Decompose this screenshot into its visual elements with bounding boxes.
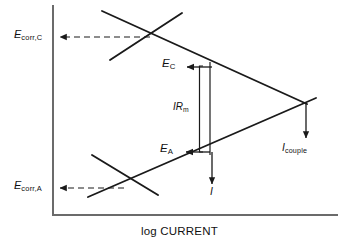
label-e-a-sub: A bbox=[168, 147, 173, 156]
label-ir-m: IRm bbox=[173, 102, 189, 113]
label-e-a-base: E bbox=[160, 142, 168, 154]
label-e-a: EA bbox=[160, 143, 173, 156]
x-axis-title: log CURRENT bbox=[141, 225, 218, 237]
label-i-current-base: I bbox=[210, 185, 213, 197]
label-e-c-sub: C bbox=[170, 62, 176, 71]
dashed-leader-group bbox=[60, 37, 150, 188]
label-ir-m-base: IR bbox=[173, 101, 183, 112]
ir-m-bracket-left bbox=[200, 66, 204, 152]
ir-m-bracket bbox=[200, 62, 211, 155]
label-e-corr-c-sub: corr,C bbox=[21, 33, 42, 42]
cathodic-main-branch-line bbox=[102, 11, 307, 104]
label-e-c-base: E bbox=[162, 57, 170, 69]
label-e-c: EC bbox=[162, 58, 176, 71]
label-i-couple: Icouple bbox=[282, 142, 307, 155]
label-i-couple-sub: couple bbox=[285, 147, 307, 155]
label-e-corr-c: Ecorr,C bbox=[14, 29, 42, 41]
label-i-current: I bbox=[210, 186, 213, 197]
label-e-corr-a: Ecorr,A bbox=[14, 180, 42, 192]
diagram-canvas bbox=[0, 0, 344, 249]
anodic-lower-branch-line bbox=[92, 155, 158, 195]
evans-diagram-figure: Ecorr,C Ecorr,A EC EA IRm Icouple I log … bbox=[0, 0, 344, 249]
label-ir-m-sub: m bbox=[183, 106, 189, 113]
label-e-corr-a-sub: corr,A bbox=[21, 184, 42, 193]
cathodic-branch-group bbox=[102, 11, 307, 104]
